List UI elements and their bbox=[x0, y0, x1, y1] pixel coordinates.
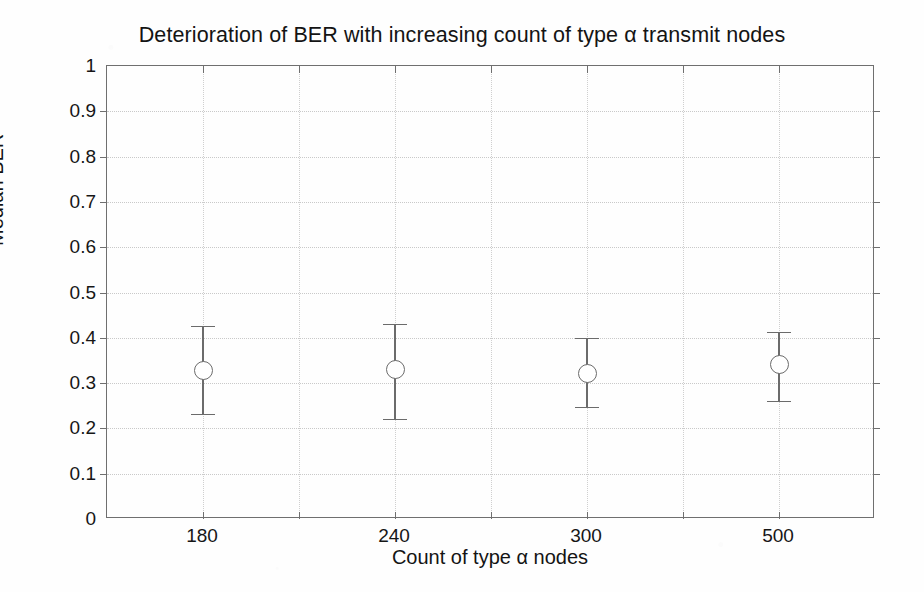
gridline-vertical bbox=[203, 66, 204, 517]
errorbar-cap-upper bbox=[383, 324, 407, 325]
y-tick-mark-right bbox=[873, 338, 880, 339]
gridline-vertical bbox=[587, 66, 588, 517]
y-tick-label: 0.3 bbox=[10, 373, 96, 392]
y-axis-title: Median BER bbox=[0, 134, 6, 246]
y-tick-mark bbox=[100, 383, 107, 384]
gridline-vertical bbox=[299, 66, 300, 517]
x-tick-mark bbox=[587, 512, 588, 519]
y-tick-mark-right bbox=[873, 157, 880, 158]
y-tick-mark bbox=[100, 474, 107, 475]
gridline-horizontal bbox=[107, 157, 873, 158]
x-tick-mark-top bbox=[779, 66, 780, 73]
y-tick-mark bbox=[100, 293, 107, 294]
x-tick-mark bbox=[299, 512, 300, 519]
y-tick-mark-right bbox=[873, 383, 880, 384]
y-tick-mark bbox=[100, 111, 107, 112]
x-tick-label: 500 bbox=[728, 526, 828, 545]
chart-figure: Deterioration of BER with increasing cou… bbox=[0, 0, 924, 592]
y-tick-mark-right bbox=[873, 428, 880, 429]
y-tick-label: 1 bbox=[10, 56, 96, 75]
x-tick-mark-top bbox=[491, 66, 492, 73]
y-tick-mark bbox=[100, 428, 107, 429]
x-tick-mark-top bbox=[395, 66, 396, 73]
x-tick-mark bbox=[683, 512, 684, 519]
errorbar-cap-upper bbox=[191, 326, 215, 327]
x-axis-title: Count of type α nodes bbox=[106, 546, 874, 568]
gridline-horizontal bbox=[107, 111, 873, 112]
x-tick-mark bbox=[203, 512, 204, 519]
gridline-vertical bbox=[779, 66, 780, 517]
x-tick-mark bbox=[491, 512, 492, 519]
errorbar-cap-lower bbox=[575, 407, 599, 408]
x-tick-mark-top bbox=[587, 66, 588, 73]
plot-inner bbox=[107, 66, 873, 517]
x-tick-label: 300 bbox=[536, 526, 636, 545]
y-tick-label: 0.2 bbox=[10, 418, 96, 437]
gridline-vertical bbox=[683, 66, 684, 517]
chart-title: Deterioration of BER with increasing cou… bbox=[0, 22, 924, 48]
gridline-horizontal bbox=[107, 293, 873, 294]
data-point-marker bbox=[386, 360, 405, 379]
y-tick-label: 0.9 bbox=[10, 101, 96, 120]
x-tick-mark-top bbox=[203, 66, 204, 73]
gridline-vertical bbox=[395, 66, 396, 517]
plot-area bbox=[106, 65, 874, 518]
y-tick-label: 0.1 bbox=[10, 464, 96, 483]
y-tick-label: 0.4 bbox=[10, 328, 96, 347]
errorbar-cap-upper bbox=[575, 338, 599, 339]
data-point-marker bbox=[194, 361, 213, 380]
x-tick-mark bbox=[395, 512, 396, 519]
y-tick-label: 0.5 bbox=[10, 283, 96, 302]
x-tick-label: 240 bbox=[344, 526, 444, 545]
x-tick-mark-top bbox=[299, 66, 300, 73]
gridline-horizontal bbox=[107, 338, 873, 339]
errorbar-cap-lower bbox=[767, 401, 791, 402]
x-tick-mark bbox=[779, 512, 780, 519]
y-tick-mark bbox=[100, 157, 107, 158]
y-tick-label: 0.6 bbox=[10, 237, 96, 256]
y-tick-label: 0 bbox=[10, 509, 96, 528]
x-tick-label: 180 bbox=[152, 526, 252, 545]
errorbar-cap-upper bbox=[767, 332, 791, 333]
y-tick-mark bbox=[100, 202, 107, 203]
gridline-horizontal bbox=[107, 474, 873, 475]
y-tick-mark-right bbox=[873, 111, 880, 112]
y-tick-mark-right bbox=[873, 293, 880, 294]
gridline-horizontal bbox=[107, 383, 873, 384]
y-tick-mark-right bbox=[873, 247, 880, 248]
data-point-marker bbox=[770, 355, 789, 374]
y-tick-mark-right bbox=[873, 474, 880, 475]
gridline-horizontal bbox=[107, 247, 873, 248]
y-tick-label: 0.8 bbox=[10, 147, 96, 166]
y-tick-mark bbox=[100, 338, 107, 339]
gridline-horizontal bbox=[107, 202, 873, 203]
x-tick-mark-top bbox=[683, 66, 684, 73]
errorbar-cap-lower bbox=[383, 419, 407, 420]
data-point-marker bbox=[578, 364, 597, 383]
y-tick-mark bbox=[100, 247, 107, 248]
y-tick-label: 0.7 bbox=[10, 192, 96, 211]
gridline-horizontal bbox=[107, 428, 873, 429]
y-tick-mark-right bbox=[873, 202, 880, 203]
errorbar-cap-lower bbox=[191, 414, 215, 415]
gridline-vertical bbox=[491, 66, 492, 517]
